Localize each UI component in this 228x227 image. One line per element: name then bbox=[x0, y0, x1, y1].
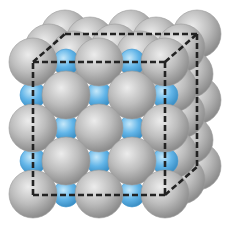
front-face-spheres bbox=[9, 38, 189, 218]
lattice-svg bbox=[0, 0, 228, 227]
crystal-lattice-diagram bbox=[0, 0, 228, 227]
